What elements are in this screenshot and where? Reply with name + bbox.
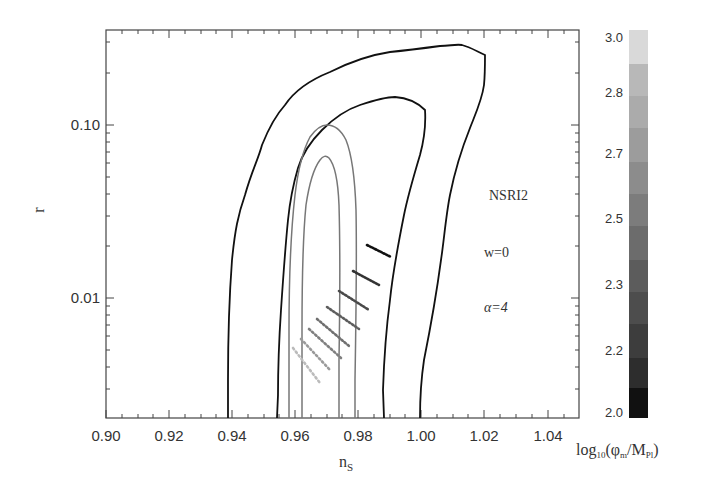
y-tick-label: 0.10 [71, 116, 100, 133]
colorbar-tick-label: 2.2 [605, 343, 623, 358]
x-tick-label: 0.94 [217, 427, 246, 444]
annotation-w: w=0 [484, 245, 509, 260]
x-tick-label: 1.04 [533, 427, 562, 444]
y-axis-ticks [106, 42, 579, 389]
x-axis-ticks [106, 30, 564, 418]
series-line-3.0 [293, 348, 320, 383]
x-axis-title-main: n [339, 453, 347, 470]
contour-inner-grey [302, 156, 340, 418]
colorbar-tick-label: 2.3 [605, 277, 623, 292]
contour-inner-black [277, 97, 425, 418]
x-tick-label: 0.90 [91, 427, 120, 444]
x-axis-title: nS [339, 453, 353, 473]
colorbar-title-mpl: /M [627, 441, 646, 458]
colorbar-tick-label: 2.0 [605, 405, 623, 420]
chart: 0.90 0.92 0.94 0.96 0.98 1.00 1.02 1.04 … [0, 0, 704, 497]
x-tick-labels: 0.90 0.92 0.94 0.96 0.98 1.00 1.02 1.04 [91, 427, 562, 444]
colorbar-tick-label: 2.7 [605, 146, 623, 161]
colorbar-tick-labels: 3.0 2.8 2.7 2.5 2.3 2.2 2.0 [605, 30, 623, 420]
data-series [293, 245, 391, 383]
colorbar [629, 30, 648, 418]
y-tick-labels: 0.10 0.01 [71, 116, 100, 306]
x-tick-label: 0.92 [154, 427, 183, 444]
colorbar-title-sub-m: m [620, 450, 627, 460]
plot-frame [106, 30, 579, 418]
x-tick-label: 0.98 [343, 427, 372, 444]
y-tick-label: 0.01 [71, 289, 100, 306]
colorbar-tick-label: 3.0 [605, 30, 623, 45]
colorbar-title: log10(φm/MPl) [576, 441, 659, 460]
series-line-2.3 [339, 291, 369, 310]
x-tick-label: 1.00 [406, 427, 435, 444]
series-line-2.0 [367, 245, 391, 257]
colorbar-tick-label: 2.8 [605, 85, 623, 100]
colorbar-title-log: log [576, 441, 596, 459]
x-tick-label: 1.02 [469, 427, 498, 444]
series-line-2.5 [327, 307, 359, 329]
colorbar-title-close: ) [653, 441, 658, 459]
x-tick-label: 0.96 [280, 427, 309, 444]
annotation-model: NSRI2 [489, 188, 528, 203]
annotation-alpha: α=4 [484, 300, 508, 315]
contour-outer-grey [289, 125, 356, 418]
y-axis-title: r [30, 207, 47, 213]
confidence-contours [228, 45, 485, 418]
colorbar-title-phi: (φ [605, 441, 620, 459]
x-axis-title-sub: S [347, 461, 353, 473]
colorbar-tick-label: 2.5 [605, 211, 623, 226]
